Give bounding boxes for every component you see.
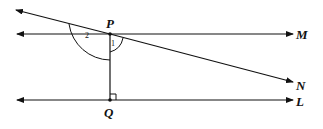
angle-2-arc — [69, 24, 110, 60]
label-P: P — [106, 16, 115, 31]
geometry-diagram: P Q M N L 1 2 — [0, 0, 323, 129]
label-Q: Q — [104, 105, 114, 120]
label-M: M — [295, 27, 308, 42]
label-angle-2: 2 — [85, 31, 89, 40]
label-L: L — [295, 94, 304, 109]
label-angle-1: 1 — [111, 39, 115, 48]
point-P — [108, 32, 112, 36]
point-Q — [108, 98, 112, 102]
label-N: N — [295, 78, 306, 93]
transversal-PN — [16, 10, 293, 82]
